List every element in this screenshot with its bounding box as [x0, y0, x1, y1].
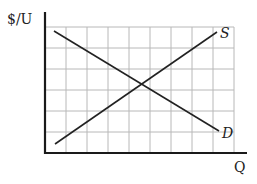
x-axis-label: Q: [234, 159, 245, 175]
supply-demand-chart: $/U Q S D: [0, 0, 257, 184]
demand-label: D: [221, 125, 233, 141]
demand-curve: [54, 31, 219, 131]
supply-curve: [55, 32, 217, 144]
grid: [45, 27, 234, 153]
y-axis-label: $/U: [7, 11, 33, 27]
supply-label: S: [220, 25, 230, 41]
